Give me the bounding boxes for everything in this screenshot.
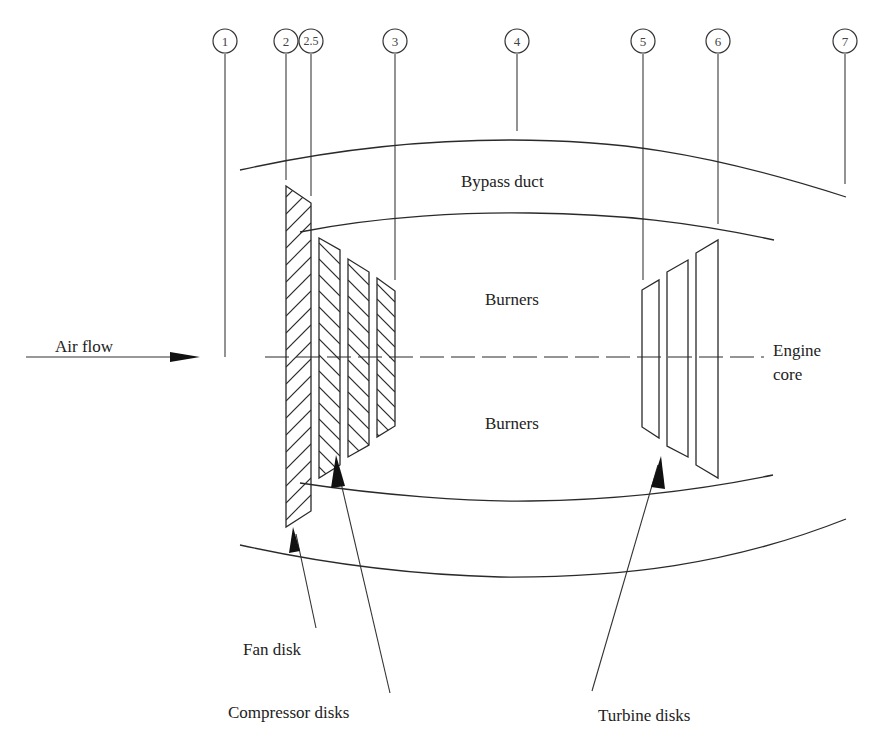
fan-disk-leader xyxy=(289,527,316,628)
station-2-label: 2 xyxy=(283,34,290,49)
turbine-disks-label: Turbine disks xyxy=(598,706,690,725)
engine-core-label-line1: Engine xyxy=(773,341,821,360)
air-flow-label: Air flow xyxy=(55,337,114,356)
turbine-disk-1 xyxy=(642,280,659,438)
station-3: 3 xyxy=(383,29,407,280)
engine-core-label-line2: core xyxy=(773,365,802,384)
core-casing-bottom xyxy=(300,475,773,501)
station-2-5: 2.5 xyxy=(299,29,323,196)
arrow-head-icon xyxy=(289,527,300,553)
arrow-head-icon xyxy=(170,352,200,362)
station-5-label: 5 xyxy=(640,34,647,49)
burners-lower-label: Burners xyxy=(485,414,539,433)
turbine-disk-3 xyxy=(696,240,718,478)
station-6-label: 6 xyxy=(715,34,722,49)
bypass-duct-label: Bypass duct xyxy=(461,172,544,191)
fan-disk-label: Fan disk xyxy=(243,640,302,659)
turbofan-diagram: 1 2 2.5 3 4 5 6 xyxy=(0,0,876,744)
outer-casing-bottom xyxy=(240,519,846,577)
station-1-label: 1 xyxy=(222,34,229,49)
station-7: 7 xyxy=(833,29,857,184)
turbine-disk-2 xyxy=(667,260,688,457)
fan-disk xyxy=(286,155,311,571)
station-4-label: 4 xyxy=(514,34,521,49)
station-2-5-label: 2.5 xyxy=(304,34,319,48)
arrow-head-icon xyxy=(331,455,345,488)
burners-upper-label: Burners xyxy=(485,290,539,309)
station-4: 4 xyxy=(505,29,529,131)
arrow-head-icon xyxy=(651,456,665,489)
compressor-disk-3 xyxy=(377,254,395,467)
station-7-label: 7 xyxy=(842,34,849,49)
station-6: 6 xyxy=(706,29,730,224)
compressor-disk-2 xyxy=(348,232,369,493)
compressor-disks-label: Compressor disks xyxy=(228,703,349,722)
station-3-label: 3 xyxy=(392,34,399,49)
station-1: 1 xyxy=(213,29,237,357)
station-2: 2 xyxy=(274,29,298,180)
core-casing-top xyxy=(300,213,774,240)
station-5: 5 xyxy=(631,29,655,280)
